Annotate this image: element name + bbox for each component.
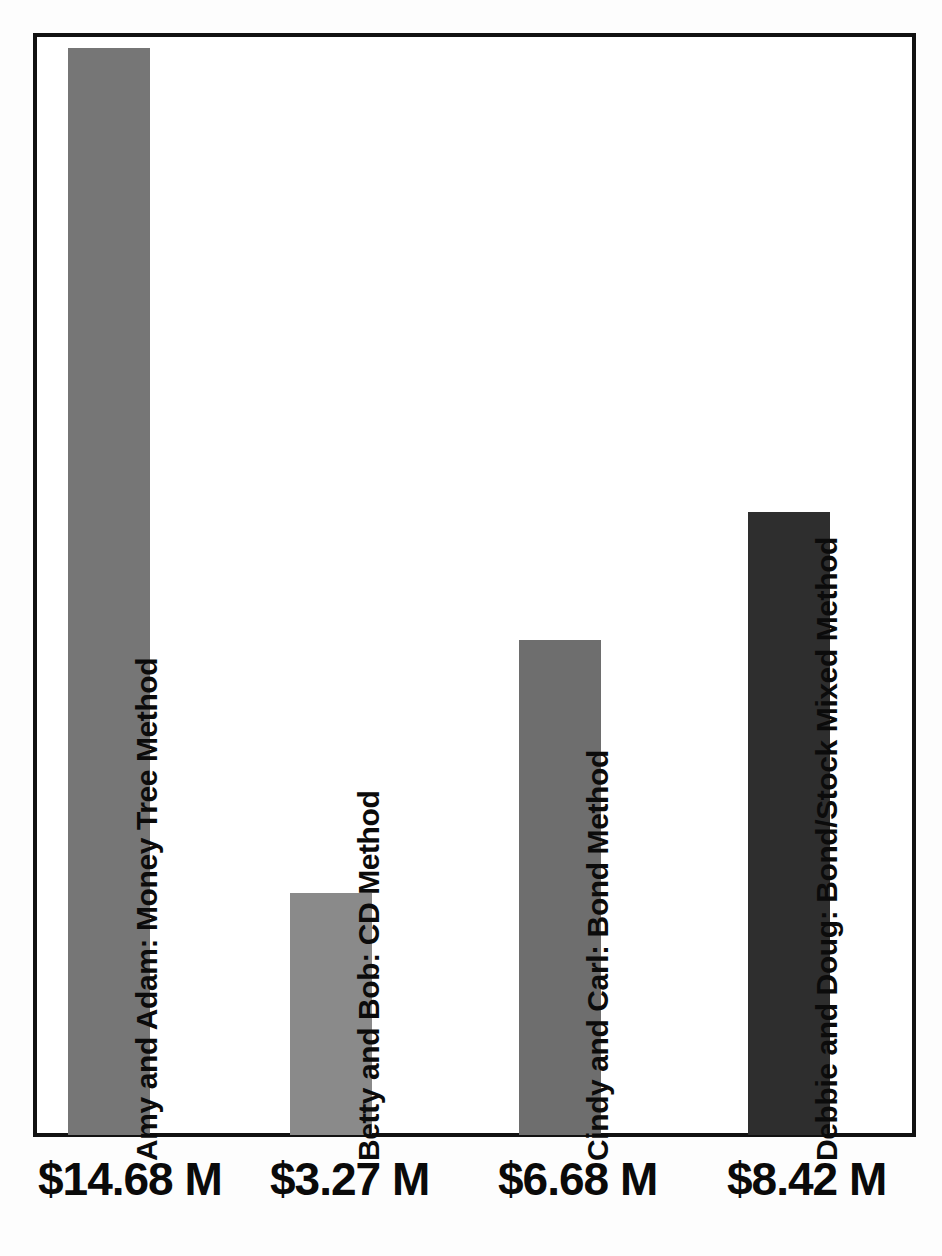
bar-label-cindy-and-carl: Cindy and Carl: Bond Method (583, 750, 613, 1161)
value-label-row: $14.68 M $3.27 M $6.68 M $8.42 M (0, 1152, 942, 1222)
bar-label-debbie-and-doug: Debbie and Doug: Bond/Stock Mixed Method (812, 537, 842, 1161)
value-label-amy-and-adam: $14.68 M (38, 1152, 222, 1206)
bar-label-betty-and-bob: Betty and Bob: CD Method (354, 791, 384, 1161)
value-label-betty-and-bob: $3.27 M (270, 1152, 429, 1206)
bar-label-amy-and-adam: Amy and Adam: Money Tree Method (132, 658, 162, 1161)
bar-chart: Amy and Adam: Money Tree Method Betty an… (0, 0, 942, 1256)
value-label-cindy-and-carl: $6.68 M (498, 1152, 657, 1206)
value-label-debbie-and-doug: $8.42 M (727, 1152, 886, 1206)
